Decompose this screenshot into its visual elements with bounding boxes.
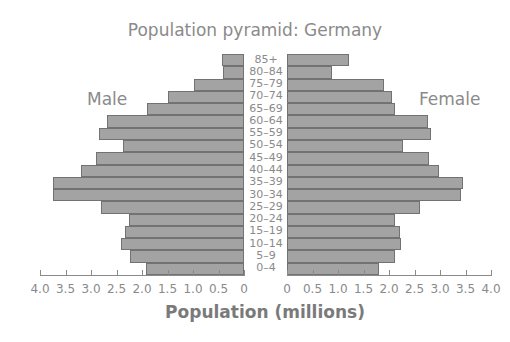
age-group-label: 0–4 [245,262,287,274]
tick-mark [193,270,194,275]
female-bar [287,128,431,140]
female-bar [287,263,379,275]
male-bar [53,189,244,201]
female-bar [287,79,384,91]
male-bar [130,250,244,262]
male-bar [123,140,244,152]
age-group-label: 20–24 [245,213,287,225]
age-group-label: 35–39 [245,176,287,188]
age-group-label: 40–44 [245,164,287,176]
female-label: Female [419,89,480,109]
tick-mark [338,270,339,275]
age-group-label: 60–64 [245,115,287,127]
female-bar [287,238,401,250]
tick-mark [364,270,365,275]
tick-label: 0 [229,282,259,296]
tick-mark [313,270,314,275]
male-bar [99,128,244,140]
age-group-label: 5–9 [245,250,287,262]
female-bar [287,214,395,226]
male-bar [194,79,244,91]
age-group-label: 85+ [245,54,287,66]
male-bar [96,152,244,164]
female-bar [287,250,395,262]
tick-mark [440,270,441,275]
tick-mark [415,270,416,275]
female-bar [287,115,428,127]
age-group-label: 80–84 [245,66,287,78]
tick-mark [244,270,245,275]
age-group-label: 30–34 [245,189,287,201]
female-bar [287,177,463,189]
male-bar [223,66,244,78]
tick-mark [466,270,467,275]
male-bar [129,214,244,226]
tick-mark [91,270,92,275]
tick-mark [66,270,67,275]
female-bar [287,189,461,201]
male-bar [53,177,244,189]
female-bar [287,165,439,177]
male-bar [107,115,244,127]
age-group-label: 65–69 [245,103,287,115]
male-bar [222,54,244,66]
x-axis-label: Population (millions) [0,302,510,322]
female-bar [287,91,392,103]
female-bar [287,140,403,152]
male-bar [121,238,244,250]
female-bar [287,66,332,78]
female-bar [287,152,429,164]
tick-mark [389,270,390,275]
tick-mark [40,270,41,275]
age-group-label: 75–79 [245,78,287,90]
age-group-label: 15–19 [245,225,287,237]
age-group-label: 10–14 [245,238,287,250]
tick-mark [142,270,143,275]
tick-mark [117,270,118,275]
male-bar [81,165,244,177]
female-bar [287,103,395,115]
tick-mark [168,270,169,275]
age-group-label: 55–59 [245,127,287,139]
left-x-axis [40,275,245,276]
female-bar [287,226,400,238]
male-bar [147,103,244,115]
female-bar [287,54,349,66]
chart-title: Population pyramid: Germany [0,20,510,40]
tick-mark [219,270,220,275]
age-group-label: 70–74 [245,90,287,102]
age-group-label: 25–29 [245,201,287,213]
male-bar [101,201,244,213]
tick-label: 4.0 [476,282,506,296]
right-x-axis [287,275,492,276]
tick-mark [287,270,288,275]
age-group-label: 45–49 [245,152,287,164]
male-bar [125,226,244,238]
male-bar [168,91,244,103]
female-bar [287,201,420,213]
male-bar [146,263,244,275]
tick-mark [491,270,492,275]
age-group-label: 50–54 [245,139,287,151]
male-label: Male [87,89,127,109]
